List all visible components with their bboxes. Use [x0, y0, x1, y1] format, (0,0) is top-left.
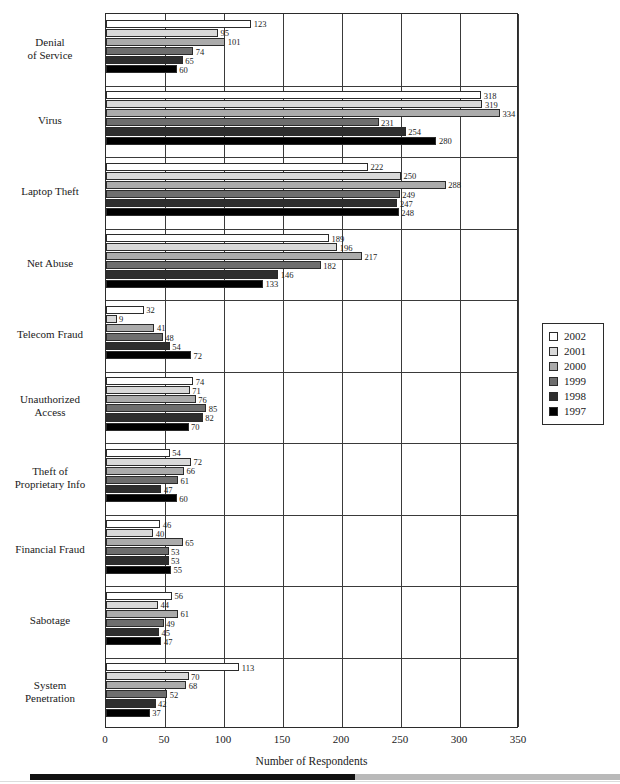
category-label-line: Sabotage	[0, 614, 100, 627]
category-separator	[106, 157, 517, 158]
category-label-4: Telecom Fraud	[0, 328, 100, 341]
x-tick-350: 350	[498, 733, 538, 745]
bar-value-label: 61	[180, 610, 189, 619]
bar-value-label: 74	[196, 48, 205, 57]
category-separator	[106, 658, 517, 659]
bar-1997-4	[106, 351, 191, 359]
bar-2001-2	[106, 172, 401, 180]
gridline-250	[401, 14, 402, 727]
category-separator	[106, 372, 517, 373]
bar-2000-9	[106, 681, 186, 689]
bar-1999-2	[106, 190, 400, 198]
category-label-0: Denialof Service	[0, 36, 100, 62]
bar-chart-figure: 1239510174656031831933423125428022225028…	[0, 0, 620, 784]
bar-value-label: 56	[175, 592, 184, 601]
bar-2002-8	[106, 592, 172, 600]
category-separator	[106, 300, 517, 301]
bar-1998-9	[106, 699, 156, 707]
bar-value-label: 49	[166, 620, 175, 629]
category-label-9: SystemPenetration	[0, 679, 100, 705]
bar-2001-1	[106, 100, 482, 108]
category-label-line: Proprietary Info	[0, 478, 100, 491]
x-tick-250: 250	[380, 733, 420, 745]
bar-value-label: 32	[146, 306, 155, 315]
bar-value-label: 217	[365, 253, 378, 262]
bar-2002-4	[106, 306, 144, 314]
category-label-line: Virus	[0, 114, 100, 127]
bar-value-label: 250	[404, 172, 417, 181]
legend-item-2000[interactable]: 2000	[549, 359, 599, 374]
category-label-line: of Service	[0, 49, 100, 62]
bar-value-label: 222	[370, 163, 383, 172]
legend-item-2001[interactable]: 2001	[549, 344, 599, 359]
footer-rule	[0, 774, 620, 780]
bar-1997-3	[106, 280, 263, 288]
bar-value-label: 70	[191, 423, 200, 432]
legend-item-1999[interactable]: 1999	[549, 374, 599, 389]
bar-value-label: 44	[160, 601, 169, 610]
legend: 200220012000199919981997	[542, 323, 604, 425]
bar-2002-3	[106, 234, 329, 242]
bar-value-label: 189	[332, 235, 345, 244]
category-separator	[106, 586, 517, 587]
bar-1999-0	[106, 47, 193, 55]
plot-area: 1239510174656031831933423125428022225028…	[105, 13, 518, 728]
category-label-line: Theft of	[0, 465, 100, 478]
bar-2000-3	[106, 252, 362, 260]
bar-value-label: 47	[164, 486, 173, 495]
legend-item-1997[interactable]: 1997	[549, 404, 599, 419]
category-label-1: Virus	[0, 114, 100, 127]
bar-2000-4	[106, 324, 154, 332]
bar-value-label: 334	[503, 110, 516, 119]
bar-value-label: 146	[281, 271, 294, 280]
bar-value-label: 254	[408, 128, 421, 137]
bar-value-label: 54	[172, 343, 181, 352]
x-tick-0: 0	[85, 733, 125, 745]
bar-2001-3	[106, 243, 337, 251]
bar-value-label: 41	[157, 324, 166, 333]
bar-value-label: 72	[193, 352, 202, 361]
legend-item-1998[interactable]: 1998	[549, 389, 599, 404]
category-label-5: UnauthorizedAccess	[0, 393, 100, 419]
legend-swatch-icon	[549, 362, 558, 371]
category-label-line: Financial Fraud	[0, 543, 100, 556]
bar-2001-7	[106, 529, 153, 537]
category-label-line: Net Abuse	[0, 257, 100, 270]
bar-1997-1	[106, 137, 436, 145]
bar-1998-6	[106, 485, 161, 493]
bar-value-label: 318	[484, 92, 497, 101]
bar-2002-6	[106, 449, 170, 457]
category-label-line: Unauthorized	[0, 393, 100, 406]
bar-value-label: 61	[180, 477, 189, 486]
bar-1999-9	[106, 690, 167, 698]
bar-2002-2	[106, 163, 368, 171]
legend-swatch-icon	[549, 377, 558, 386]
bar-value-label: 54	[172, 449, 181, 458]
bar-1998-4	[106, 342, 170, 350]
bar-value-label: 182	[323, 262, 336, 271]
legend-label: 1997	[564, 406, 586, 417]
category-label-line: Denial	[0, 36, 100, 49]
bar-2001-6	[106, 458, 191, 466]
bar-1997-2	[106, 208, 399, 216]
category-label-8: Sabotage	[0, 614, 100, 627]
bar-1998-2	[106, 199, 397, 207]
legend-item-2002[interactable]: 2002	[549, 329, 599, 344]
bar-1997-8	[106, 637, 161, 645]
legend-swatch-icon	[549, 392, 558, 401]
bar-2001-8	[106, 601, 158, 609]
footer-rule-dark-segment	[30, 774, 355, 780]
category-label-line: Telecom Fraud	[0, 328, 100, 341]
bar-value-label: 60	[179, 66, 188, 75]
bar-value-label: 66	[186, 467, 195, 476]
x-tick-150: 150	[262, 733, 302, 745]
bar-1999-6	[106, 476, 178, 484]
gridline-300	[460, 14, 461, 727]
category-label-line: Access	[0, 406, 100, 419]
bar-1998-5	[106, 413, 203, 421]
category-label-line: System	[0, 679, 100, 692]
bar-value-label: 74	[196, 378, 205, 387]
bar-value-label: 68	[189, 682, 198, 691]
category-separator	[106, 443, 517, 444]
bar-value-label: 47	[164, 638, 173, 647]
